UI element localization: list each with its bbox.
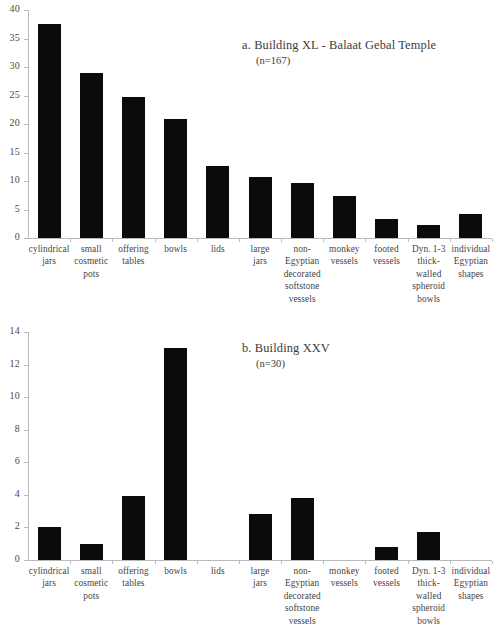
chart-panel-a: 4035302520151050 cylindricaljarssmallcos…	[0, 0, 498, 318]
y-tick-label: 12	[10, 358, 20, 370]
x-axis-label: smallcosmeticpots	[67, 243, 115, 280]
x-axis-label: Dyn. 1-3thick-walledspheroidbowls	[405, 565, 453, 627]
x-axis-label: cylindricaljars	[25, 243, 73, 268]
x-axis-label: offeringtables	[109, 243, 157, 268]
x-axis-label-line: softstone	[278, 280, 326, 292]
x-tick-mark	[70, 239, 71, 242]
y-tick-mark	[24, 527, 28, 528]
x-tick-mark	[323, 561, 324, 564]
bar	[459, 214, 482, 238]
x-tick-mark	[281, 239, 282, 242]
x-tick-mark	[281, 561, 282, 564]
x-axis-label-line: individual	[447, 243, 495, 255]
x-tick-mark	[155, 239, 156, 242]
x-axis-label-line: shapes	[447, 268, 495, 280]
x-axis-label-line: non-	[278, 565, 326, 577]
x-axis-label-line: softstone	[278, 602, 326, 614]
x-axis-label-line: bowls	[405, 615, 453, 627]
x-axis-label-line: thick-	[405, 577, 453, 589]
chart-subtitle-a: (n=167)	[256, 54, 290, 67]
x-tick-mark	[492, 239, 493, 242]
x-axis-line-a	[28, 238, 492, 239]
x-axis-label-line: cylindrical	[25, 565, 73, 577]
chart-title-b: b. Building XXV	[242, 341, 330, 356]
x-axis-label-line: large	[236, 565, 284, 577]
y-tick-mark	[24, 210, 28, 211]
y-tick-mark	[24, 124, 28, 125]
x-tick-mark	[365, 239, 366, 242]
y-tick-mark	[24, 96, 28, 97]
x-tick-mark	[408, 239, 409, 242]
x-axis-label-line: walled	[405, 268, 453, 280]
x-axis-label-line: decorated	[278, 268, 326, 280]
x-axis-label-line: tables	[109, 577, 157, 589]
x-axis-label: lids	[194, 243, 242, 255]
bar	[375, 547, 398, 560]
y-tick-mark	[24, 495, 28, 496]
bar	[333, 196, 356, 238]
bar	[38, 527, 61, 560]
y-tick-mark	[24, 462, 28, 463]
x-axis-label-line: Dyn. 1-3	[405, 565, 453, 577]
bar	[164, 119, 187, 238]
y-tick-mark	[24, 397, 28, 398]
x-axis-label: smallcosmeticpots	[67, 565, 115, 602]
x-axis-label-line: cosmetic	[67, 577, 115, 589]
y-tick-label: 25	[10, 89, 20, 101]
x-axis-label-line: monkey	[320, 243, 368, 255]
x-axis-label-line: spheroid	[405, 602, 453, 614]
y-tick-label: 2	[15, 520, 20, 532]
x-axis-label-line: non-	[278, 243, 326, 255]
x-axis-label: bowls	[152, 243, 200, 255]
x-tick-mark	[323, 239, 324, 242]
bar	[417, 532, 440, 560]
x-axis-label-line: decorated	[278, 590, 326, 602]
y-tick-label: 5	[15, 203, 20, 215]
y-tick-label: 10	[10, 174, 20, 186]
y-tick-label: 14	[10, 325, 20, 337]
bar	[291, 183, 314, 238]
bar	[249, 514, 272, 560]
bar	[80, 73, 103, 238]
y-tick-mark	[24, 10, 28, 11]
x-axis-label: offeringtables	[109, 565, 157, 590]
x-tick-mark	[70, 561, 71, 564]
y-tick-mark	[24, 153, 28, 154]
y-tick-label: 10	[10, 390, 20, 402]
bar	[291, 498, 314, 560]
x-tick-mark	[492, 561, 493, 564]
x-tick-mark	[197, 239, 198, 242]
x-axis-label-line: Dyn. 1-3	[405, 243, 453, 255]
bar	[80, 544, 103, 560]
x-tick-mark	[408, 561, 409, 564]
x-axis-label-line: cylindrical	[25, 243, 73, 255]
y-axis-line-b	[28, 332, 29, 561]
bar	[122, 97, 145, 238]
x-tick-mark	[365, 561, 366, 564]
bar	[38, 24, 61, 238]
x-axis-label: non-Egyptiandecoratedsoftstonevessels	[278, 565, 326, 627]
y-tick-mark	[24, 430, 28, 431]
x-axis-label-line: Egyptian	[278, 255, 326, 267]
x-axis-label-line: Egyptian	[447, 255, 495, 267]
x-axis-label: largejars	[236, 565, 284, 590]
x-axis-label-line: walled	[405, 590, 453, 602]
x-axis-label-line: monkey	[320, 565, 368, 577]
x-axis-label-line: offering	[109, 565, 157, 577]
x-axis-label-line: cosmetic	[67, 255, 115, 267]
x-axis-label-line: pots	[67, 268, 115, 280]
chart-title-a: a. Building XL - Balaat Gebal Temple	[242, 38, 436, 53]
y-tick-label: 4	[15, 488, 20, 500]
x-axis-label-line: vessels	[320, 255, 368, 267]
bar	[249, 177, 272, 238]
x-axis-label-line: vessels	[278, 615, 326, 627]
x-axis-label: monkeyvessels	[320, 565, 368, 590]
y-tick-label: 30	[10, 60, 20, 72]
x-axis-label-line: lids	[194, 243, 242, 255]
bar	[375, 219, 398, 238]
x-axis-label: individualEgyptianshapes	[447, 565, 495, 602]
x-axis-label-line: bowls	[152, 565, 200, 577]
x-axis-label-line: vessels	[362, 577, 410, 589]
x-axis-label: Dyn. 1-3thick-walledspheroidbowls	[405, 243, 453, 305]
x-axis-label-line: footed	[362, 243, 410, 255]
